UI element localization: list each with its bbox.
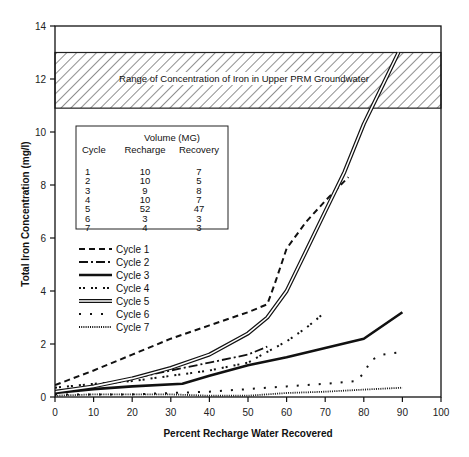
table-cell: 3 bbox=[196, 222, 201, 233]
legend-item-cycle-3: Cycle 3 bbox=[79, 270, 150, 281]
legend-label: Cycle 6 bbox=[116, 309, 150, 320]
table-title: Volume (MG) bbox=[144, 132, 200, 143]
x-tick-label: 30 bbox=[165, 407, 177, 418]
series-cycle-4 bbox=[55, 312, 325, 388]
y-tick-label: 14 bbox=[35, 21, 47, 32]
legend-item-cycle-6: Cycle 6 bbox=[79, 309, 150, 320]
legend-label: Cycle 3 bbox=[116, 270, 150, 281]
table-cell: 4 bbox=[142, 222, 147, 233]
legend-item-cycle-7: Cycle 7 bbox=[79, 322, 150, 333]
table-header-recharge: Recharge bbox=[124, 144, 165, 155]
x-axis-title: Percent Recharge Water Recovered bbox=[163, 428, 332, 439]
x-tick-label: 90 bbox=[397, 407, 409, 418]
iron-concentration-chart: 010203040506070809010002468101214 Range … bbox=[0, 0, 469, 457]
x-tick-label: 60 bbox=[281, 407, 293, 418]
legend-item-cycle-4: Cycle 4 bbox=[79, 283, 150, 294]
band-label: Range of Concentration of Iron in Upper … bbox=[119, 73, 369, 84]
table-header-cycle: Cycle bbox=[82, 144, 106, 155]
table-cell: 7 bbox=[85, 222, 90, 233]
legend-label: Cycle 2 bbox=[116, 257, 150, 268]
y-tick-label: 2 bbox=[40, 339, 46, 350]
x-tick-label: 80 bbox=[358, 407, 370, 418]
x-tick-label: 10 bbox=[88, 407, 100, 418]
legend-label: Cycle 5 bbox=[116, 296, 150, 307]
x-tick-label: 100 bbox=[433, 407, 450, 418]
legend-label: Cycle 7 bbox=[116, 322, 150, 333]
table-header-recovery: Recovery bbox=[179, 144, 219, 155]
y-tick-label: 10 bbox=[35, 127, 47, 138]
y-tick-label: 6 bbox=[40, 233, 46, 244]
legend-item-cycle-5: Cycle 5 bbox=[79, 296, 150, 307]
series-cycle-3 bbox=[55, 312, 402, 393]
x-tick-label: 20 bbox=[127, 407, 139, 418]
legend: Cycle 1Cycle 2Cycle 3Cycle 4Cycle 5Cycle… bbox=[79, 244, 150, 333]
y-tick-label: 12 bbox=[35, 74, 47, 85]
y-tick-label: 0 bbox=[40, 392, 46, 403]
y-tick-label: 4 bbox=[40, 286, 46, 297]
y-axis-title: Total Iron Concentration (mg/l) bbox=[20, 141, 31, 286]
volume-table: Volume (MG) Cycle Recharge Recovery 1107… bbox=[76, 126, 228, 233]
legend-label: Cycle 1 bbox=[116, 244, 150, 255]
x-tick-label: 70 bbox=[320, 407, 332, 418]
y-tick-label: 8 bbox=[40, 180, 46, 191]
legend-item-cycle-1: Cycle 1 bbox=[79, 244, 150, 255]
legend-label: Cycle 4 bbox=[116, 283, 150, 294]
x-tick-label: 50 bbox=[242, 407, 254, 418]
legend-item-cycle-2: Cycle 2 bbox=[79, 257, 150, 268]
x-tick-label: 40 bbox=[204, 407, 216, 418]
x-tick-label: 0 bbox=[52, 407, 58, 418]
